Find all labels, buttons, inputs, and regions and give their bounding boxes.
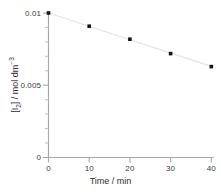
y-axis-title-wrapper: [I2] / mol dm−3 <box>8 15 22 155</box>
y-axis-title-superscript: −3 <box>8 57 15 64</box>
y-axis-title: [I2] / mol dm−3 <box>8 15 22 155</box>
data-point <box>128 37 132 41</box>
chart-figure: 0.01 0.005 0 0 10 20 30 40 Time / min [I… <box>0 0 221 196</box>
chart-plot-area <box>0 0 221 196</box>
y-axis-title-species-open: [I <box>10 108 20 113</box>
y-axis-major-ticks <box>43 13 49 158</box>
x-tick-label-30: 30 <box>157 164 185 173</box>
x-tick-label-10: 10 <box>75 164 103 173</box>
data-point <box>87 24 91 28</box>
data-point <box>210 65 214 69</box>
x-axis-major-ticks <box>49 158 212 163</box>
y-axis-title-species-close: ] / mol dm <box>10 65 20 105</box>
x-tick-label-40: 40 <box>197 164 221 173</box>
y-axis-title-subscript: 2 <box>15 104 22 108</box>
data-point <box>47 11 51 15</box>
x-axis-title: Time / min <box>0 176 221 186</box>
x-tick-label-20: 20 <box>116 164 144 173</box>
data-point <box>169 52 173 56</box>
x-tick-label-0: 0 <box>35 164 63 173</box>
data-point-series <box>47 11 213 68</box>
